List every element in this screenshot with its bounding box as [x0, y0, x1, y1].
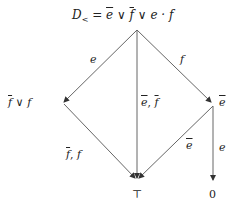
label-f-bar: f: [155, 96, 159, 109]
edge-label-left-bottom: f, f: [66, 149, 81, 160]
label-d: D: [72, 8, 82, 22]
node-right-label: e: [219, 97, 226, 108]
edge-left-bottom: [64, 104, 135, 178]
node-bottom-label: ⊤: [132, 189, 142, 200]
node-top-label: D< = e ∨ f ∨ e · f: [72, 9, 173, 24]
diagram-edges: [0, 0, 236, 214]
node-left-label: f ∨ f: [8, 97, 31, 108]
edge-right-bottom: [139, 106, 213, 178]
label-f: f: [27, 96, 31, 109]
edge-label-top-bottom: e, f: [141, 97, 159, 108]
edge-label-top-right: f: [180, 54, 184, 65]
edge-label-right-bottom: e: [186, 140, 193, 151]
edge-label-top-left: e: [90, 54, 97, 65]
edge-top-right: [137, 30, 211, 102]
label-e-bar: e: [186, 139, 193, 152]
label-or: ∨: [12, 96, 27, 109]
edge-top-left: [64, 30, 137, 102]
label-sep: ,: [148, 96, 155, 109]
node-zero-label: 0: [209, 189, 216, 200]
edge-label-right-zero: e: [219, 142, 226, 153]
label-f: f: [77, 148, 81, 161]
label-or: ∨: [134, 8, 150, 22]
label-or: ∨: [113, 8, 129, 22]
label-e-bar: e: [219, 96, 226, 109]
label-eq: =: [88, 8, 106, 22]
label-ef: e · f: [150, 8, 173, 22]
